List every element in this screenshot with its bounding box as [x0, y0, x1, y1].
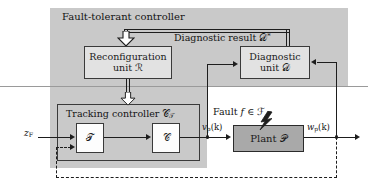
feedback-dashed-into-t — [56, 147, 71, 148]
tracking-controller-label: Tracking controller 𝒞𝒯 — [66, 108, 174, 120]
block-diagram-canvas: Fault-tolerant controller Diagnostic res… — [0, 0, 368, 190]
c-to-plant-arrowhead — [226, 134, 231, 140]
c-block-symbol: 𝒞 — [163, 132, 170, 143]
c-block[interactable]: 𝒞 — [152, 123, 180, 153]
vp-to-diagnostic-arrowhead — [233, 61, 238, 67]
tracking-controller-subscript: 𝒯 — [169, 112, 174, 120]
wp-to-diagnostic-horizontal — [317, 62, 337, 63]
diagnostic-unit-symbol: 𝒟 — [282, 62, 290, 73]
reference-input-subscript: F — [29, 131, 33, 138]
diagnostic-to-reconfiguration-horizontal — [124, 29, 290, 30]
lightning-bolt-icon — [259, 111, 274, 131]
plant-output-label: wp(k) — [307, 122, 330, 132]
reference-input-label: zF — [24, 128, 33, 138]
plant-input-arg: (k) — [211, 122, 223, 132]
t-to-c-arrowhead — [146, 134, 151, 140]
diagnostic-unit-line2-prefix: unit — [260, 62, 282, 73]
vp-to-diagnostic-vertical — [207, 64, 208, 137]
reference-input-arrowhead — [70, 134, 75, 140]
reconfiguration-unit-line2-prefix: unit — [113, 62, 135, 73]
c-to-plant-line — [180, 137, 227, 138]
diagnostic-result-superscript: * — [267, 32, 270, 40]
diagnostic-unit-line2: unit 𝒟 — [260, 63, 290, 74]
diagnostic-to-reconfiguration-horizontal-2 — [124, 32, 290, 33]
t-block[interactable]: 𝒯 — [76, 123, 104, 153]
plant-output-arrowhead — [355, 134, 360, 140]
plant-output-arg: (k) — [318, 122, 330, 132]
wp-to-diagnostic-vertical — [336, 62, 337, 137]
wp-to-diagnostic-arrowhead — [311, 59, 316, 65]
feedback-dashed-vertical-left — [56, 147, 57, 178]
plant-input-label: vp(k) — [202, 122, 222, 132]
reconfiguration-unit-block[interactable]: Reconfiguration unit ℛ — [84, 46, 172, 79]
diagnostic-result-text: Diagnostic result — [174, 32, 259, 43]
fault-label: Fault f ∈ ℱ — [213, 106, 265, 117]
fault-tolerant-controller-title: Fault-tolerant controller — [62, 11, 185, 22]
diagnostic-result-label: Diagnostic result 𝒟* — [174, 32, 271, 44]
horizontal-separator-line — [0, 86, 368, 87]
tracking-controller-label-prefix: Tracking controller — [66, 108, 162, 119]
diagnostic-unit-block[interactable]: Diagnostic unit 𝒟 — [240, 46, 310, 79]
reconfiguration-unit-line2: unit ℛ — [113, 63, 143, 74]
feedback-arrowhead — [70, 144, 75, 150]
reconfiguration-unit-symbol: ℛ — [135, 62, 143, 73]
plant-label-prefix: Plant — [250, 133, 280, 144]
t-to-c-line — [104, 137, 147, 138]
t-block-symbol: 𝒯 — [86, 132, 94, 143]
hollow-block-arrow-down-icon-top — [117, 31, 135, 47]
feedback-dashed-horizontal — [56, 177, 337, 178]
plant-symbol: 𝒫 — [280, 133, 287, 144]
fault-text: Fault — [213, 106, 241, 117]
reference-input-line — [38, 137, 71, 138]
feedback-dashed-vertical-right — [336, 137, 337, 178]
fault-member: ∈ — [244, 106, 257, 117]
plant-label: Plant 𝒫 — [250, 133, 287, 144]
plant-output-line — [304, 137, 356, 138]
vp-to-diagnostic-horizontal — [207, 64, 234, 65]
